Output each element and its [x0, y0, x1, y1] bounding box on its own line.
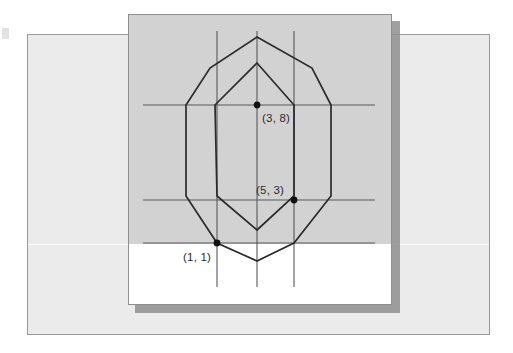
grid-horizontal-lines — [143, 105, 375, 243]
point-3-8-dot — [254, 102, 261, 109]
outer-polygon — [186, 37, 331, 261]
point-3-8-label: (3, 8) — [262, 112, 290, 124]
inner-polygon — [215, 63, 294, 230]
figure-stage: (3, 8) (5, 3) (1, 1) — [0, 0, 513, 353]
point-1-1-label: (1, 1) — [183, 251, 211, 263]
point-1-1-dot — [214, 240, 221, 247]
point-5-3-dot — [291, 197, 298, 204]
point-5-3-label: (5, 3) — [256, 184, 284, 196]
geometry-figure-svg: (3, 8) (5, 3) (1, 1) — [0, 0, 513, 353]
